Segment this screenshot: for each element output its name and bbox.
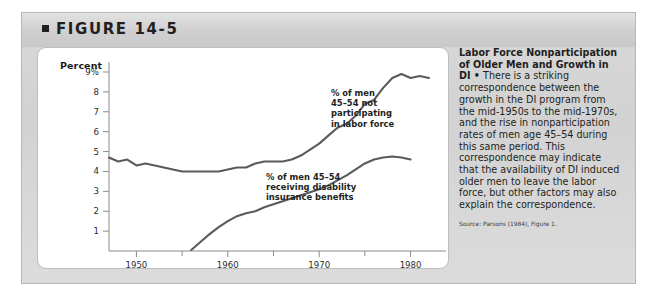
sidebar-paragraph: Labor Force Nonparticipationof Older Men…: [459, 47, 622, 211]
chart-panel: Percent 9%876543211950196019701980 % of …: [37, 47, 449, 269]
svg-text:1980: 1980: [400, 260, 422, 270]
sidebar-body-text: There is a striking correspondence betwe…: [459, 70, 619, 210]
sidebar-text-panel: Labor Force Nonparticipationof Older Men…: [459, 47, 622, 277]
svg-text:7: 7: [94, 107, 99, 117]
figure-header: FIGURE 14-5: [22, 13, 635, 47]
figure-number-label: FIGURE 14-5: [56, 20, 178, 38]
svg-text:3: 3: [94, 186, 99, 196]
svg-text:4: 4: [94, 166, 99, 176]
svg-text:5: 5: [94, 147, 99, 157]
svg-text:8: 8: [94, 87, 99, 97]
figure-container: FIGURE 14-5 Percent 9%876543211950196019…: [0, 0, 662, 295]
line-chart: 9%876543211950196019701980: [38, 48, 450, 270]
svg-text:9%: 9%: [85, 67, 99, 77]
svg-text:1970: 1970: [308, 260, 330, 270]
source-note: Source: Parsons (1984), Figure 1.: [459, 220, 622, 228]
figure-title: FIGURE 14-5: [42, 20, 178, 38]
callout-upper-series: % of men 45–54 not participating in labo…: [331, 88, 394, 129]
svg-text:6: 6: [94, 127, 99, 137]
svg-text:1960: 1960: [217, 260, 239, 270]
svg-text:2: 2: [94, 206, 99, 216]
figure-card: FIGURE 14-5 Percent 9%876543211950196019…: [21, 12, 636, 284]
svg-text:1: 1: [94, 226, 99, 236]
sidebar-title-line1: Labor Force Nonparticipation: [459, 47, 617, 58]
svg-text:1950: 1950: [125, 260, 147, 270]
square-bullet-icon: [42, 25, 49, 32]
callout-lower-series: % of men 45–54 receiving disability insu…: [266, 172, 356, 203]
